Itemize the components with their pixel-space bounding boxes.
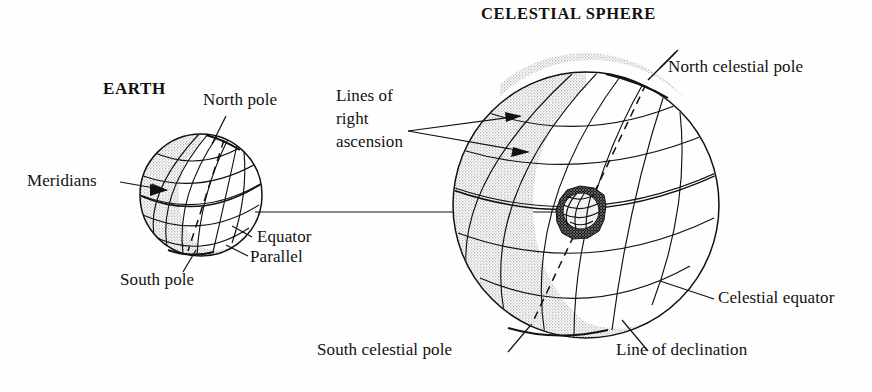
lines-of-right-ascension-label: Lines of right ascension (336, 84, 403, 153)
parallel-label: Parallel (250, 247, 303, 267)
north-celestial-pole-label: North celestial pole (668, 57, 803, 77)
celestial-equator-label: Celestial equator (718, 288, 834, 308)
celestial-sphere-title: CELESTIAL SPHERE (481, 4, 656, 24)
earth-sphere-graphic (140, 134, 262, 256)
earth-polar-axis (188, 140, 224, 251)
north-pole-label: North pole (203, 90, 277, 110)
meridians-label: Meridians (27, 171, 97, 191)
south-celestial-pole-label: South celestial pole (317, 340, 452, 360)
celestial-sphere-diagram: CELESTIAL SPHERE EARTH North pole South … (0, 0, 872, 392)
inner-earth-globe (556, 186, 606, 239)
earth-title: EARTH (103, 79, 166, 99)
line-of-declination-label: Line of declination (616, 340, 747, 360)
equator-label: Equator (257, 227, 312, 247)
south-pole-label: South pole (120, 270, 194, 290)
